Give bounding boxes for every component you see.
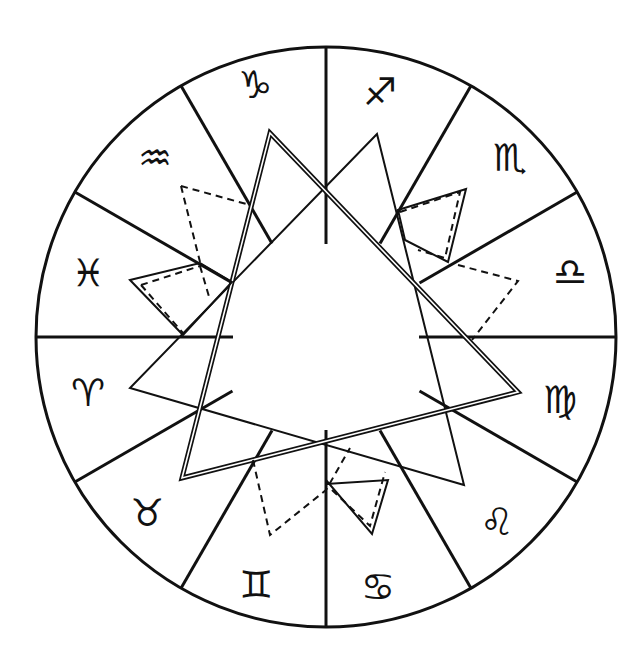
solid-quadrilateral bbox=[326, 480, 388, 534]
cancer-icon: ♋ bbox=[361, 568, 395, 606]
solid-quadrilateral bbox=[398, 189, 466, 262]
pisces-icon: ♓ bbox=[71, 254, 105, 292]
zodiac-wheel bbox=[0, 0, 644, 664]
aspect-figures bbox=[130, 133, 518, 535]
dashed-aspect-line bbox=[200, 266, 210, 300]
sagittarius-icon: ♐ bbox=[363, 73, 397, 111]
double-triangle-outer bbox=[182, 133, 518, 478]
aries-icon: ♈ bbox=[71, 374, 105, 412]
solid-quadrilateral bbox=[130, 263, 232, 335]
libra-icon: ♎ bbox=[553, 253, 587, 291]
scorpio-icon: ♏ bbox=[493, 139, 527, 177]
dashed-aspect-line bbox=[458, 265, 518, 340]
dashed-aspect-line bbox=[141, 285, 183, 333]
aquarius-icon: ♒ bbox=[138, 139, 172, 177]
gemini-icon: ♊ bbox=[239, 566, 273, 604]
sector-dividers bbox=[36, 47, 616, 627]
sector-divider bbox=[181, 86, 272, 244]
capricorn-icon: ♑ bbox=[238, 66, 272, 104]
dashed-aspect-line bbox=[181, 186, 200, 262]
double-triangle-inner bbox=[182, 133, 518, 478]
virgo-icon: ♍ bbox=[543, 381, 577, 419]
taurus-icon: ♉ bbox=[130, 494, 164, 532]
leo-icon: ♌ bbox=[480, 503, 514, 541]
